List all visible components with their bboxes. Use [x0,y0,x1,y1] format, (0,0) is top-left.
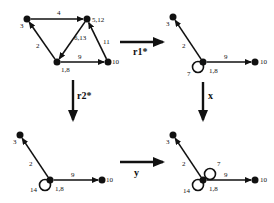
graph-top-right: 29731,810 [166,14,268,79]
node-label: 3 [20,22,24,30]
loop-label: 7 [217,160,221,168]
edge-label: 6,13 [74,34,87,42]
edge-label: 4 [57,9,61,17]
node-label: 10 [260,58,268,66]
node-label: 1,8 [209,185,218,193]
node [99,177,106,184]
graph-bottom-right: 2971431,810 [166,132,268,196]
node-label: 3 [166,138,170,146]
node [105,59,112,66]
node-label: 3 [13,138,17,146]
transition-y: y [120,162,163,178]
edge-label: 9 [71,171,75,179]
node [200,177,207,184]
transition-label: r2* [77,90,91,101]
node [17,132,24,139]
node-label: 10 [112,58,120,66]
edge [22,138,48,177]
edge-label: 2 [182,42,186,50]
loop-label: 14 [30,186,38,194]
edge [29,22,55,59]
transition-label: r1* [133,46,147,57]
graph-top-left: 426,1391135,121,810 [20,9,120,74]
node-label: 1,8 [61,66,70,74]
edge-label: 2 [29,160,33,168]
edge-label: 9 [78,53,82,61]
loop-label: 14 [183,187,191,195]
loop-edge [205,169,216,180]
node [170,132,177,139]
transition-r1-star: r1* [120,42,163,57]
transition-label: y [134,167,139,178]
transition-r2-star: r2* [73,80,91,120]
node [84,16,91,23]
node [47,177,54,184]
edge-label: 9 [224,171,228,179]
graphs: 426,1391135,121,81029731,810291431,81029… [13,9,268,195]
node [24,16,31,23]
edge-label: 9 [224,53,228,61]
node-label: 10 [260,176,268,184]
node [200,59,207,66]
edge [175,138,201,177]
loop-label: 7 [187,70,191,78]
node [252,177,259,184]
edge-label: 2 [182,160,186,168]
transition-x: x [203,82,213,120]
graph-rewriting-diagram: r1*r2*xy 426,1391135,121,81029731,810291… [0,0,274,203]
edge-label: 2 [36,42,40,50]
node-label: 3 [166,20,170,28]
transition-label: x [208,90,213,101]
node [54,59,61,66]
node-label: 1,8 [55,185,64,193]
node-label: 1,8 [209,67,218,75]
node-label: 10 [106,176,114,184]
node-label: 5,12 [92,16,105,24]
edge-label: 11 [103,38,110,46]
node [170,14,177,21]
edge [175,20,201,59]
node [252,59,259,66]
graph-bottom-left: 291431,810 [13,132,114,195]
